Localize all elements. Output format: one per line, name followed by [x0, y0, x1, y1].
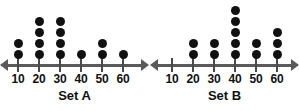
- plot-caption: Set A: [0, 88, 149, 103]
- axis-tick: [122, 58, 124, 72]
- dot-stack: [50, 15, 70, 59]
- axis-tick: [38, 58, 40, 72]
- data-dot: [231, 17, 240, 26]
- axis-tick: [234, 58, 236, 72]
- data-dot: [252, 39, 261, 48]
- data-dot: [35, 50, 44, 59]
- axis-tick: [80, 58, 82, 72]
- dot-stack: [29, 15, 49, 59]
- axis-tick: [255, 58, 257, 72]
- data-dot: [119, 50, 128, 59]
- axis-tick: [213, 58, 215, 72]
- data-dot: [273, 50, 282, 59]
- dot-stack: [113, 48, 133, 59]
- dot-plot-set-a: 102030405060 Set A: [0, 0, 149, 111]
- data-dot: [231, 28, 240, 37]
- data-dot: [231, 39, 240, 48]
- data-dot: [98, 50, 107, 59]
- dot-plot-set-b: 102030405060 Set B: [150, 0, 299, 111]
- axis-arrow-right-icon: [291, 59, 299, 71]
- axis-tick: [276, 58, 278, 72]
- data-dot: [56, 50, 65, 59]
- axis-arrow-left-icon: [150, 59, 158, 71]
- dot-stack: [204, 37, 224, 59]
- data-dot: [98, 39, 107, 48]
- data-dot: [77, 50, 86, 59]
- data-dot: [35, 39, 44, 48]
- data-dot: [210, 39, 219, 48]
- data-dot: [231, 6, 240, 15]
- axis-tick: [192, 58, 194, 72]
- axis-arrow-right-icon: [141, 59, 149, 71]
- data-dot: [56, 28, 65, 37]
- axis-tick: [17, 58, 19, 72]
- plot-caption: Set B: [150, 88, 299, 103]
- data-dot: [56, 39, 65, 48]
- axis-tick: [101, 58, 103, 72]
- dot-plot-figure: 102030405060 Set A 102030405060 Set B: [0, 0, 299, 111]
- data-dot: [35, 28, 44, 37]
- data-dot: [56, 17, 65, 26]
- dot-stack: [225, 4, 245, 59]
- data-dot: [189, 39, 198, 48]
- data-dot: [273, 28, 282, 37]
- data-dot: [231, 50, 240, 59]
- dot-stack: [246, 37, 266, 59]
- data-dot: [273, 39, 282, 48]
- data-dot: [14, 50, 23, 59]
- number-line-axis: [156, 64, 293, 67]
- data-dot: [35, 17, 44, 26]
- data-dot: [189, 50, 198, 59]
- dot-stack: [8, 37, 28, 59]
- data-dot: [14, 39, 23, 48]
- axis-tick: [171, 58, 173, 72]
- dot-stack: [267, 26, 287, 59]
- data-dot: [252, 50, 261, 59]
- axis-tick-label: 60: [103, 72, 143, 86]
- axis-arrow-left-icon: [0, 59, 8, 71]
- data-dot: [210, 50, 219, 59]
- dot-stack: [71, 48, 91, 59]
- axis-tick-label: 60: [257, 72, 297, 86]
- dot-stack: [92, 37, 112, 59]
- axis-tick: [59, 58, 61, 72]
- dot-stack: [183, 37, 203, 59]
